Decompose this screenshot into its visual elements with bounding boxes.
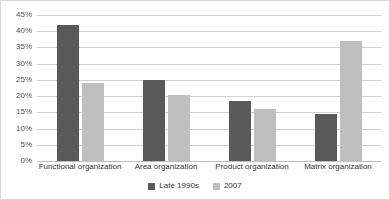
legend: Late 1990s2007 (1, 182, 389, 190)
legend-swatch-icon (213, 183, 220, 190)
bar-group (295, 15, 381, 161)
x-axis-label: Area organization (123, 163, 209, 172)
bar-group (209, 15, 295, 161)
y-tick-label: 20% (1, 92, 32, 100)
legend-swatch-icon (148, 183, 155, 190)
y-tick-label: 35% (1, 43, 32, 51)
y-tick-label: 0% (1, 157, 32, 165)
bar (143, 80, 165, 161)
y-tick-label: 10% (1, 125, 32, 133)
x-axis-label: Functional organization (37, 163, 123, 172)
bar (340, 41, 362, 161)
y-tick-label: 5% (1, 141, 32, 149)
legend-item: 2007 (213, 182, 242, 190)
y-tick-label: 25% (1, 76, 32, 84)
x-axis-label: Product organization (209, 163, 295, 172)
legend-label: 2007 (224, 182, 242, 190)
bar-groups (37, 15, 381, 161)
y-tick-label: 40% (1, 27, 32, 35)
plot-area (37, 15, 381, 161)
y-tick-label: 30% (1, 60, 32, 68)
bar-chart: 0%5%10%15%20%25%30%35%40%45% Functional … (0, 0, 390, 200)
bar (57, 25, 79, 161)
bar-group (123, 15, 209, 161)
bar (315, 114, 337, 161)
bar (229, 101, 251, 161)
legend-item: Late 1990s (148, 182, 199, 190)
y-tick-label: 15% (1, 108, 32, 116)
bar (82, 83, 104, 161)
bar (168, 95, 190, 162)
bar (254, 109, 276, 161)
y-tick-label: 45% (1, 11, 32, 19)
x-axis-labels: Functional organizationArea organization… (37, 163, 381, 172)
legend-label: Late 1990s (159, 182, 199, 190)
x-axis-label: Matrix organization (295, 163, 381, 172)
bar-group (37, 15, 123, 161)
